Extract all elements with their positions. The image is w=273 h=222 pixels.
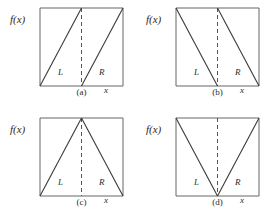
y-axis-label: f(x) (10, 14, 25, 25)
plot-area-c (40, 118, 123, 196)
panel-a: f(x) L R x (a) (0, 0, 136, 111)
right-region-label: R (235, 68, 241, 77)
panel-b: f(x) L R x (b) (136, 0, 272, 111)
plot-svg-c (40, 118, 123, 196)
figure-sheet: f(x) L R x (a) f(x) L R x (b) (0, 0, 273, 222)
panel-c: f(x) L R x (c) (0, 110, 136, 221)
right-region-label: R (99, 178, 105, 187)
left-region-label: L (194, 68, 199, 77)
y-axis-label: f(x) (10, 124, 25, 135)
left-region-label: L (58, 178, 63, 187)
panel-caption-b: (b) (136, 88, 273, 97)
plot-svg-a (40, 8, 123, 86)
plot-svg-b (176, 8, 259, 86)
left-region-label: L (58, 68, 63, 77)
left-region-label: L (194, 178, 199, 187)
y-axis-label: f(x) (146, 14, 161, 25)
panel-caption-d: (d) (136, 198, 273, 207)
plot-area-a (40, 8, 123, 86)
right-region-label: R (235, 178, 241, 187)
panel-d: f(x) L R x (d) (136, 110, 272, 221)
y-axis-label: f(x) (146, 124, 161, 135)
plot-svg-d (176, 118, 259, 196)
plot-area-b (176, 8, 259, 86)
plot-area-d (176, 118, 259, 196)
right-region-label: R (99, 68, 105, 77)
